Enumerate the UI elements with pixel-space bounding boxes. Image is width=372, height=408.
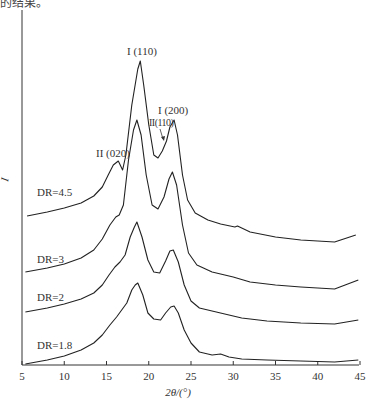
y-axis-label: I [0, 175, 11, 183]
diffraction-curves [25, 61, 358, 364]
series-label-dr18: DR=1.8 [37, 339, 73, 351]
peak-label-I110: I (110) [127, 45, 157, 58]
x-axis-ticks: 51015202530354045 [19, 361, 366, 382]
series-label-dr3: DR=3 [37, 253, 64, 265]
x-tick-label: 30 [228, 370, 240, 382]
series-label-dr45: DR=4.5 [37, 186, 73, 198]
x-tick-label: 25 [186, 370, 198, 382]
x-tick-label: 40 [312, 370, 324, 382]
peak-label-I200: I (200) [158, 104, 189, 117]
x-tick-label: 20 [143, 370, 155, 382]
curve-dr2 [25, 222, 358, 324]
series-label-dr2: DR=2 [37, 291, 64, 303]
x-tick-label: 15 [101, 370, 113, 382]
peak-label-II020: II (020) [96, 147, 130, 160]
x-tick-label: 5 [19, 370, 25, 382]
x-axis-label: 2θ/(°) [165, 386, 191, 399]
x-tick-label: 45 [355, 370, 367, 382]
curve-dr45 [27, 61, 356, 242]
xrd-chart: 51015202530354045 I 2θ/(°) DR=4.5 DR=3 D… [0, 0, 372, 408]
II110-arrowhead-icon [161, 136, 165, 141]
x-tick-label: 35 [270, 370, 282, 382]
x-tick-label: 10 [59, 370, 71, 382]
peak-label-II110: II(110) [149, 117, 174, 129]
